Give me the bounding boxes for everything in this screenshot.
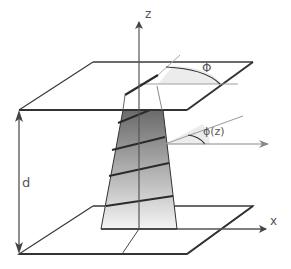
top-plate <box>19 55 253 110</box>
x-axis-label: x <box>270 215 277 227</box>
local-twist-label: ϕ(z) <box>203 126 225 137</box>
separation-label: d <box>22 176 30 189</box>
z-axis-label: z <box>145 8 151 20</box>
twisted-column-diagram <box>0 0 291 269</box>
total-twist-wedge <box>158 66 221 84</box>
total-twist-label: Φ <box>202 62 211 74</box>
